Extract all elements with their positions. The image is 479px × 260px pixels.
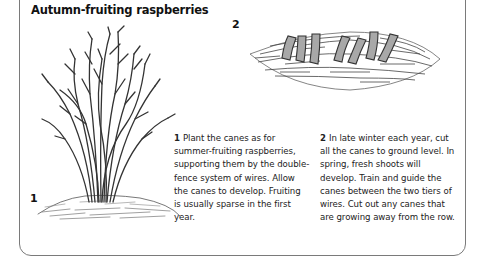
step-1-number: 1 (30, 192, 38, 205)
cut-cane-stumps-icon (240, 14, 450, 94)
step-2-caption-text: In late winter each year, cut all the ca… (320, 133, 455, 222)
step-1-caption-number: 1 (174, 133, 180, 143)
page-title: Autumn-fruiting raspberries (31, 3, 208, 17)
raspberry-canes-clump-icon (30, 24, 180, 224)
step-2-number: 2 (232, 18, 240, 31)
step-1-caption-text: Plant the canes as for summer-fruiting r… (174, 133, 309, 222)
step-1-caption: 1Plant the canes as for summer-fruiting … (174, 132, 310, 224)
step-2-caption: 2In late winter each year, cut all the c… (320, 132, 456, 224)
step-2-caption-number: 2 (320, 133, 326, 143)
